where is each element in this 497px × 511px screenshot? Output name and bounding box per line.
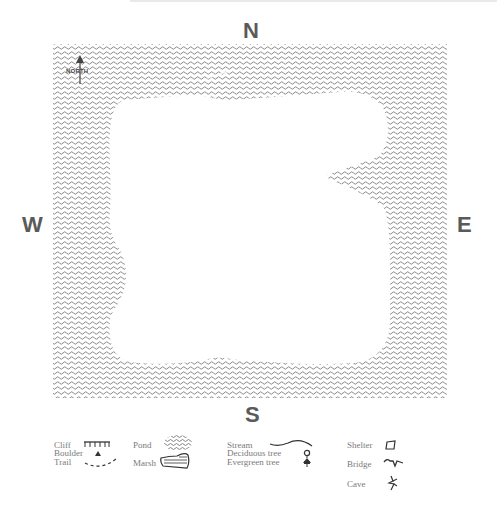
legend-bridge-label: Bridge [347,460,372,469]
legend-marsh-label: Marsh [133,459,156,468]
bridge-icon [383,457,405,469]
cliff-icon [82,440,112,450]
evergreen-tree-icon [302,458,312,467]
trail-icon [82,455,120,469]
map-legend: Cliff Boulder Trail Pond Marsh Stream De… [0,0,497,511]
pond-icon [163,434,193,452]
legend-trail-label: Trail [54,458,71,467]
legend-evergreen-tree-label: Evergreen tree [227,458,280,467]
marsh-icon [159,451,191,471]
legend-pond-label: Pond [133,441,152,450]
legend-shelter-label: Shelter [347,441,373,450]
deciduous-tree-icon [303,449,311,458]
cave-icon [387,475,399,491]
legend-cave-label: Cave [347,480,366,489]
shelter-icon [385,440,397,451]
